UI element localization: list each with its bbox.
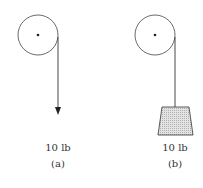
caption-b: (b) (150, 158, 200, 169)
force-arrow-icon (55, 107, 61, 115)
weight-label-a: 10 lb (33, 142, 83, 153)
pulley-a-axle (37, 34, 40, 37)
weight-label-b: 10 lb (150, 142, 200, 153)
panel-b (135, 15, 193, 135)
weight-block (158, 107, 193, 135)
panel-a (18, 15, 61, 115)
pulley-b-axle (154, 34, 157, 37)
caption-a: (a) (33, 158, 83, 169)
